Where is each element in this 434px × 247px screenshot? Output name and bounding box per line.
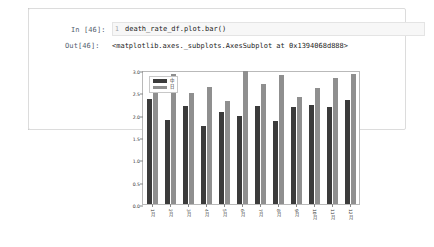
x-axis-tick-label: 9月: [293, 209, 299, 216]
bar: [309, 105, 314, 204]
legend-item: 中: [153, 79, 174, 83]
x-axis-tick-mark: [314, 204, 315, 207]
y-axis-tick-label: 0.5: [133, 181, 140, 186]
bar: [255, 106, 260, 204]
bar-group: 12月: [341, 72, 359, 204]
x-axis-tick-mark: [152, 204, 153, 207]
x-axis-tick-label: 3月: [185, 209, 191, 216]
plot-axes: 中 日 0.00.51.01.52.02.53.0 1月2月3月4月5月6月7月…: [142, 71, 360, 205]
bar: [171, 74, 176, 204]
output-repr-text: <matplotlib.axes._subplots.AxesSubplot a…: [112, 42, 348, 50]
x-axis-tick-label: 10月: [311, 209, 317, 219]
bar: [165, 120, 170, 204]
bar-group: 7月: [251, 72, 269, 204]
x-axis-tick-mark: [278, 204, 279, 207]
x-axis-tick-label: 4月: [203, 209, 209, 216]
bar: [297, 97, 302, 204]
matplotlib-figure: 中 日 0.00.51.01.52.02.53.0 1月2月3月4月5月6月7月…: [122, 61, 362, 137]
chart-legend: 中 日: [149, 76, 178, 93]
bar-group: 11月: [323, 72, 341, 204]
x-axis-tick-mark: [224, 204, 225, 207]
bar: [315, 88, 320, 204]
bar: [345, 100, 350, 204]
bar-group: 4月: [197, 72, 215, 204]
x-axis-tick-mark: [188, 204, 189, 207]
bar: [219, 112, 224, 204]
y-axis-tick-label: 1.0: [133, 159, 140, 164]
bar: [291, 107, 296, 204]
x-axis-tick-mark: [260, 204, 261, 207]
y-axis-tick-label: 2.0: [133, 114, 140, 119]
x-axis-tick-mark: [296, 204, 297, 207]
bar: [351, 74, 356, 204]
x-axis-tick-label: 1月: [149, 209, 155, 216]
bar-group: 9月: [287, 72, 305, 204]
x-axis-tick-label: 5月: [221, 209, 227, 216]
bar: [237, 116, 242, 204]
bar: [183, 106, 188, 204]
legend-swatch-icon: [153, 79, 167, 83]
bar: [189, 93, 194, 204]
input-prompt-label: In [46]:: [71, 26, 106, 34]
x-axis-tick-label: 11月: [329, 209, 335, 219]
bar-group: 8月: [269, 72, 287, 204]
bar: [327, 107, 332, 204]
y-axis-tick-label: 2.5: [133, 92, 140, 97]
x-axis-tick-label: 2月: [167, 209, 173, 216]
y-axis-tick-label: 1.5: [133, 137, 140, 142]
y-axis-tick-mark: [140, 206, 143, 207]
legend-swatch-icon: [153, 86, 167, 90]
x-axis-tick-label: 8月: [275, 209, 281, 216]
x-axis-tick-mark: [170, 204, 171, 207]
x-axis-tick-label: 7月: [257, 209, 263, 216]
code-line-number: 1: [115, 25, 119, 33]
x-axis-tick-mark: [242, 204, 243, 207]
bar: [207, 87, 212, 204]
bar: [147, 99, 152, 204]
bar: [243, 71, 248, 204]
code-input-text[interactable]: death_rate_df.plot.bar(): [125, 25, 226, 33]
bar: [201, 126, 206, 204]
bar: [153, 93, 158, 204]
bar: [279, 75, 284, 204]
x-axis-tick-mark: [206, 204, 207, 207]
bar: [333, 78, 338, 204]
bar: [261, 84, 266, 204]
bar-group: 6月: [233, 72, 251, 204]
bar-group: 3月: [179, 72, 197, 204]
bar: [273, 121, 278, 204]
legend-label: 中: [170, 79, 174, 83]
x-axis-tick-mark: [350, 204, 351, 207]
bar-group: 10月: [305, 72, 323, 204]
x-axis-tick-mark: [332, 204, 333, 207]
output-prompt-label: Out[46]:: [65, 42, 100, 50]
bar-group: 5月: [215, 72, 233, 204]
legend-item: 日: [153, 85, 174, 89]
x-axis-tick-label: 6月: [239, 209, 245, 216]
notebook-cell: In [46]: 1 death_rate_df.plot.bar() Out[…: [28, 8, 406, 130]
bar: [225, 101, 230, 204]
y-axis-tick-label: 0.0: [133, 204, 140, 209]
x-axis-tick-label: 12月: [347, 209, 353, 219]
y-axis-tick-label: 3.0: [133, 70, 140, 75]
legend-label: 日: [170, 85, 174, 89]
